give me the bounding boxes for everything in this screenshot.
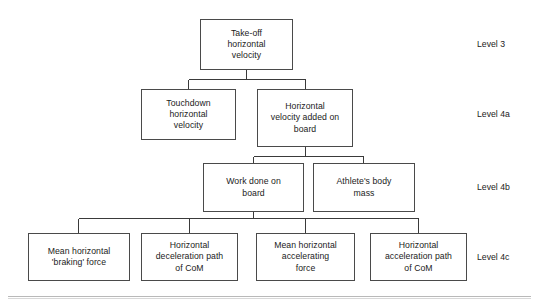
node-athletes-body-mass[interactable]: Athlete's body mass [313, 163, 415, 212]
node-take-off-horizontal-velocity[interactable]: Take-off horizontal velocity [200, 19, 293, 70]
level-label-4c: Level 4c [477, 252, 509, 263]
connector-l4b-to-l4c [79, 212, 419, 234]
node-horizontal-velocity-added-on-board[interactable]: Horizontal velocity added on board [257, 89, 353, 147]
node-label: Horizontal velocity added on board [271, 101, 339, 135]
bottom-divider-rule-shadow [8, 298, 531, 299]
level-label-4b: Level 4b [477, 182, 510, 193]
node-label: Mean horizontal accelerating force [274, 240, 337, 274]
node-mean-horizontal-braking-force[interactable]: Mean horizontal 'braking' force [28, 233, 130, 281]
node-work-done-on-board[interactable]: Work done on board [203, 163, 304, 212]
node-label: Take-off horizontal velocity [227, 28, 265, 62]
bottom-divider-rule [8, 296, 531, 297]
node-horizontal-deceleration-path-of-com[interactable]: Horizontal deceleration path of CoM [141, 233, 238, 281]
connector-l3-to-l4a [189, 70, 306, 90]
node-label: Touchdown horizontal velocity [166, 98, 210, 132]
node-label: Mean horizontal 'braking' force [48, 246, 111, 268]
node-label: Horizontal acceleration path of CoM [385, 240, 452, 274]
node-mean-horizontal-accelerating-force[interactable]: Mean horizontal accelerating force [256, 233, 355, 281]
diagram-canvas: Take-off horizontal velocity Touchdown h… [0, 0, 539, 307]
connector-l4a-to-l4b [254, 147, 364, 164]
level-label-3: Level 3 [477, 39, 505, 50]
level-label-4a: Level 4a [477, 109, 510, 120]
node-label: Athlete's body mass [336, 176, 391, 198]
node-label: Work done on board [226, 176, 281, 198]
node-label: Horizontal deceleration path of CoM [156, 240, 224, 274]
node-horizontal-acceleration-path-of-com[interactable]: Horizontal acceleration path of CoM [370, 233, 467, 281]
node-touchdown-horizontal-velocity[interactable]: Touchdown horizontal velocity [141, 89, 236, 140]
